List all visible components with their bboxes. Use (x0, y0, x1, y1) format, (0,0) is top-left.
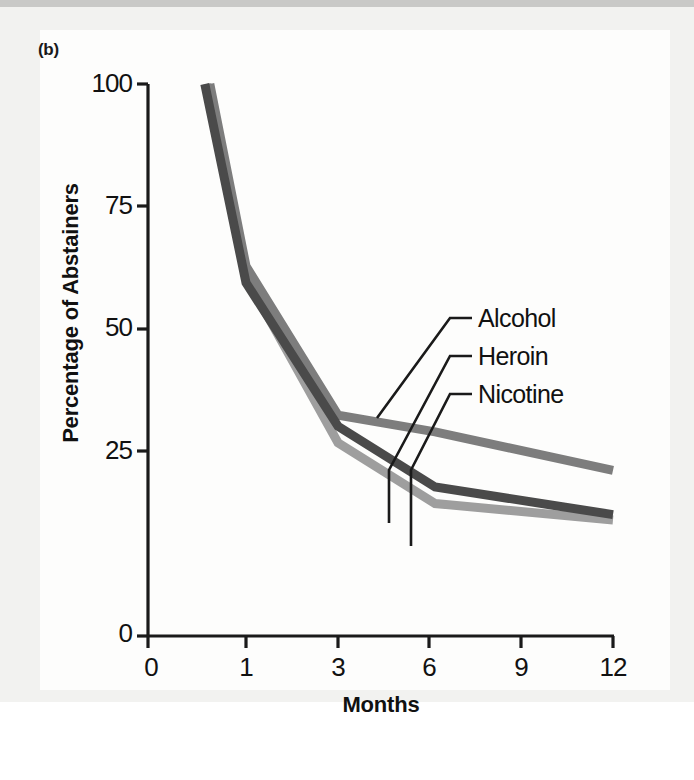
series-line-alcohol (210, 84, 613, 470)
chart-canvas (0, 0, 694, 780)
figure-page: (b) 100 75 50 25 0 0 1 3 6 9 12 Percenta… (0, 0, 694, 780)
axis-lines (137, 84, 614, 648)
leader-line-nicotine (411, 394, 472, 546)
